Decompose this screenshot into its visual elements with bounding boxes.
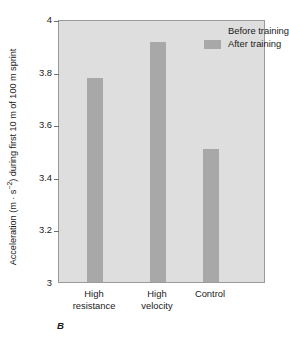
legend-swatch-before-training	[204, 27, 221, 36]
y-tick-3: 3	[26, 278, 52, 288]
x-tick-high-velocity-line2: velocity	[141, 300, 172, 312]
figure-panel-b: Acceleration (m · s−2) during first 10 m…	[0, 0, 289, 346]
y-axis-title-exponent: −2	[6, 182, 13, 190]
x-tick-control-line1: Control	[195, 288, 225, 300]
x-tick-control: Control	[195, 288, 225, 300]
legend-label-after-training: After training	[228, 38, 281, 50]
bar-high-resistance-after	[87, 78, 103, 282]
tick-mark-3-4	[54, 179, 59, 180]
legend: Before training After training	[204, 25, 289, 51]
y-tick-3-6: 3.6	[26, 120, 52, 130]
y-tick-4: 4	[26, 15, 52, 25]
plot-area: Before training After training	[58, 20, 265, 283]
x-tick-high-resistance-line2: resistance	[73, 300, 116, 312]
x-tick-high-resistance-line1: High	[73, 288, 116, 300]
y-tick-3-8: 3.8	[26, 68, 52, 78]
bar-high-velocity-after	[150, 42, 166, 282]
y-axis-title-tail: ) during first 10 m of 100 m sprint	[8, 49, 18, 182]
legend-swatch-after-training	[204, 40, 221, 49]
x-axis-tick-labels: High resistance High velocity Control	[58, 288, 265, 318]
x-tick-high-velocity: High velocity	[141, 288, 172, 311]
x-tick-high-velocity-line1: High	[141, 288, 172, 300]
tick-mark-3-8	[54, 74, 59, 75]
y-tick-3-4: 3.4	[26, 173, 52, 183]
x-tick-high-resistance: High resistance	[73, 288, 116, 311]
tick-mark-4	[54, 21, 59, 22]
y-axis-tick-labels: 4 3.8 3.6 3.4 3.2 3	[26, 0, 52, 346]
panel-letter: B	[57, 320, 64, 331]
legend-item-before-training: Before training	[204, 25, 289, 38]
legend-label-before-training: Before training	[228, 25, 289, 37]
tick-mark-3-2	[54, 231, 59, 232]
tick-mark-3-6	[54, 126, 59, 127]
y-tick-3-2: 3.2	[26, 225, 52, 235]
legend-item-after-training: After training	[204, 38, 289, 51]
y-axis-title-main: Acceleration (m · s	[8, 190, 18, 266]
y-axis-title: Acceleration (m · s−2) during first 10 m…	[5, 23, 21, 291]
bar-control-after	[203, 149, 219, 282]
